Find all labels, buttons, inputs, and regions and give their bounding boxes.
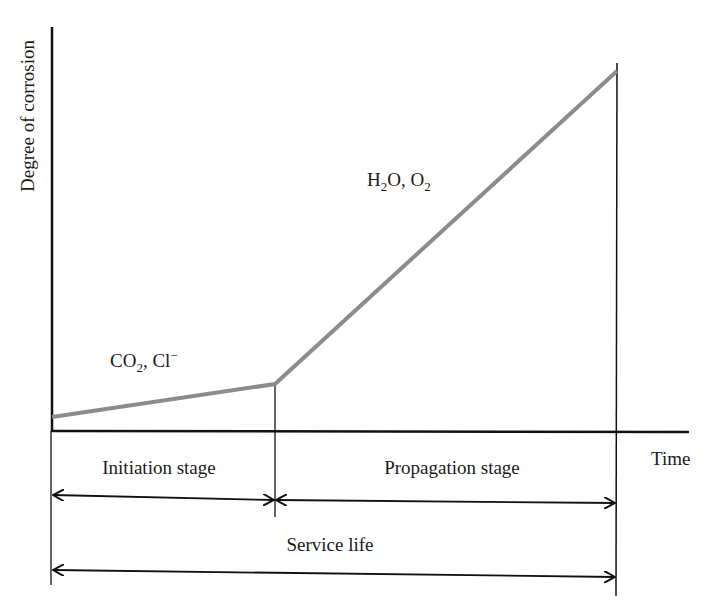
service-life-label: Service life bbox=[286, 534, 373, 555]
corrosion-diagram: Degree of corrosion Time CO2, Cl− H2O, O… bbox=[0, 0, 713, 609]
y-axis-label: Degree of corrosion bbox=[17, 40, 38, 192]
initiation-span-arrow bbox=[53, 495, 274, 500]
propagation-stage-label: Propagation stage bbox=[384, 457, 520, 478]
end-of-life-marker bbox=[616, 63, 617, 596]
initiation-stage-label: Initiation stage bbox=[102, 457, 215, 478]
propagation-agents-label: H2O, O2 bbox=[367, 169, 431, 194]
x-axis bbox=[51, 431, 689, 432]
service-life-span-arrow bbox=[53, 570, 615, 577]
propagation-span-arrow bbox=[276, 500, 615, 503]
x-axis-label: Time bbox=[651, 448, 690, 469]
initiation-agents-label: CO2, Cl− bbox=[110, 348, 178, 375]
